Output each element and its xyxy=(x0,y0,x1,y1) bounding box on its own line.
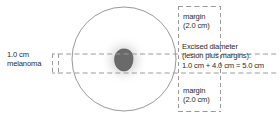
lesion-size-line-2: melanoma xyxy=(7,59,41,68)
margin-bottom-line-2: (2.0 cm) xyxy=(183,95,210,104)
melanoma-excision-diagram: 1.0 cm melanoma margin (2.0 cm) Excised … xyxy=(0,0,280,124)
excised-diameter-label: Excised diameter (lesion plus margins): … xyxy=(182,42,264,70)
excised-line-3: 1.0 cm + 4.0 cm = 5.0 cm xyxy=(182,61,264,70)
lesion-size-line-1: 1.0 cm xyxy=(7,50,41,59)
margin-top-line-2: (2.0 cm) xyxy=(183,21,210,30)
excised-line-2: (lesion plus margins): xyxy=(182,51,264,60)
margin-bottom-label: margin (2.0 cm) xyxy=(183,86,210,105)
margin-top-label: margin (2.0 cm) xyxy=(183,12,210,31)
melanoma-lesion xyxy=(115,49,133,71)
excised-line-1: Excised diameter xyxy=(182,42,264,51)
margin-bottom-line-1: margin xyxy=(183,86,210,95)
lesion-size-label: 1.0 cm melanoma xyxy=(7,50,41,69)
margin-top-line-1: margin xyxy=(183,12,210,21)
